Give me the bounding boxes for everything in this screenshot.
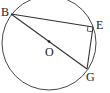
label-e: E [96,18,103,32]
label-g: G [86,70,95,84]
geometry-diagram: B E G O [0,0,110,93]
label-b: B [1,5,9,19]
segment-be [11,14,93,27]
label-o: O [45,45,54,59]
center-point [48,40,51,43]
